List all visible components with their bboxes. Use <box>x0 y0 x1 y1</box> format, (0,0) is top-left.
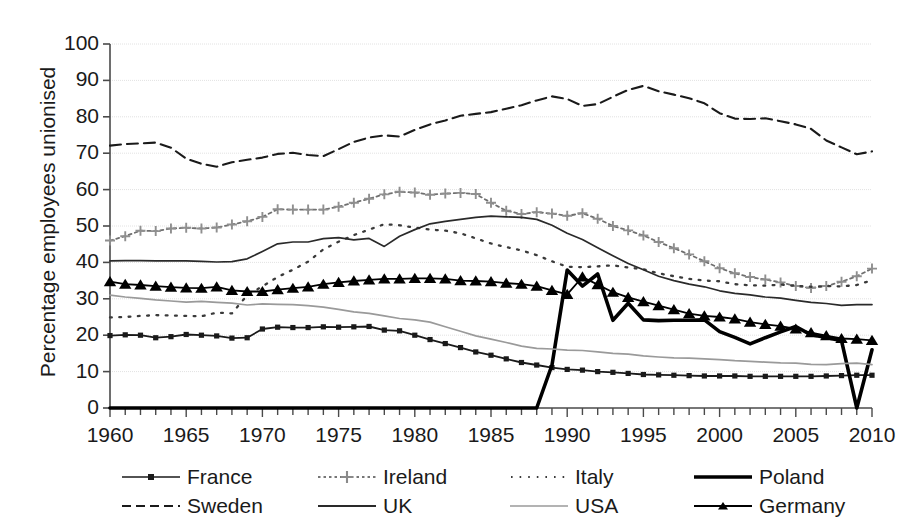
x-tick-label: 1985 <box>456 423 526 447</box>
legend-sample-germany <box>692 496 754 516</box>
x-tick-label: 2000 <box>685 423 755 447</box>
x-tick-label: 1980 <box>380 423 450 447</box>
data-point <box>273 204 283 214</box>
data-point <box>257 212 267 222</box>
y-tick-label: 0 <box>47 395 99 419</box>
data-point <box>839 373 844 378</box>
data-point <box>395 187 405 197</box>
data-point <box>443 341 448 346</box>
data-point <box>366 324 371 329</box>
data-point <box>501 206 511 216</box>
legend-item-germany[interactable]: Germany <box>692 491 872 520</box>
legend-item-uk[interactable]: UK <box>316 491 508 520</box>
series-uk <box>110 216 872 305</box>
y-tick-label: 60 <box>47 177 99 201</box>
data-point <box>867 264 877 274</box>
data-point <box>318 205 328 215</box>
x-tick-label: 1975 <box>304 423 374 447</box>
data-point <box>610 370 615 375</box>
data-point <box>595 369 600 374</box>
data-point <box>656 372 661 377</box>
data-point <box>671 373 676 378</box>
y-tick-label: 40 <box>47 249 99 273</box>
data-point <box>808 374 813 379</box>
data-point <box>229 336 234 341</box>
x-tick-label: 1990 <box>532 423 602 447</box>
legend-item-ireland[interactable]: Ireland <box>316 462 508 491</box>
data-point <box>638 230 648 240</box>
data-point <box>120 231 130 241</box>
data-point <box>336 325 341 330</box>
data-point <box>763 374 768 379</box>
data-point <box>641 372 646 377</box>
data-point <box>593 214 603 224</box>
data-point <box>562 211 572 221</box>
chart-legend: France Ireland Italy Poland <box>120 462 880 524</box>
data-point <box>364 194 374 204</box>
data-point <box>473 349 478 354</box>
series-france <box>107 324 874 379</box>
legend-sample-france <box>120 467 182 487</box>
data-point <box>334 202 344 212</box>
data-point <box>288 205 298 215</box>
legend-row-1: France Ireland Italy Poland <box>120 462 880 491</box>
legend-label-sweden: Sweden <box>187 494 263 518</box>
data-point <box>210 281 222 291</box>
legend-label-uk: UK <box>383 494 412 518</box>
data-point <box>869 373 874 378</box>
data-point <box>379 189 389 199</box>
data-point <box>245 335 250 340</box>
data-point <box>824 373 829 378</box>
legend-item-usa[interactable]: USA <box>508 491 692 520</box>
data-point <box>138 333 143 338</box>
legend-label-poland: Poland <box>759 465 824 489</box>
x-tick-label: 1995 <box>608 423 678 447</box>
legend-item-italy[interactable]: Italy <box>508 462 692 491</box>
data-point <box>745 272 755 282</box>
data-point <box>732 373 737 378</box>
data-point <box>135 226 145 236</box>
data-point <box>427 337 432 342</box>
data-point <box>532 207 542 217</box>
data-point <box>104 276 116 286</box>
legend-item-france[interactable]: France <box>120 462 316 491</box>
legend-sample-ireland <box>316 467 378 487</box>
data-point <box>425 190 435 200</box>
data-point <box>382 328 387 333</box>
data-point <box>321 324 326 329</box>
data-point <box>290 325 295 330</box>
data-point <box>458 345 463 350</box>
series-sweden <box>110 86 872 167</box>
data-point <box>168 334 173 339</box>
data-point <box>626 371 631 376</box>
y-tick-label: 70 <box>47 140 99 164</box>
data-point <box>793 374 798 379</box>
data-point <box>260 326 265 331</box>
data-point <box>212 222 222 232</box>
legend-item-poland[interactable]: Poland <box>692 462 872 491</box>
legend-item-sweden[interactable]: Sweden <box>120 491 316 520</box>
data-point <box>440 189 450 199</box>
legend-sample-usa <box>508 496 570 516</box>
legend-label-germany: Germany <box>759 494 845 518</box>
x-tick-label: 1970 <box>227 423 297 447</box>
data-point <box>747 374 752 379</box>
y-tick-label: 10 <box>47 359 99 383</box>
y-tick-label: 80 <box>47 104 99 128</box>
data-point <box>534 362 539 367</box>
unionisation-line-chart: Percentage employees unionised France Ir… <box>0 0 898 528</box>
x-tick-label: 1960 <box>75 423 145 447</box>
data-point <box>778 374 783 379</box>
y-tick-label: 30 <box>47 286 99 310</box>
data-point <box>702 373 707 378</box>
data-point <box>486 198 496 208</box>
data-point <box>397 328 402 333</box>
data-point <box>580 368 585 373</box>
x-tick-label: 2005 <box>761 423 831 447</box>
legend-row-2: Sweden UK USA Germany <box>120 491 880 520</box>
data-point <box>547 209 557 219</box>
data-point <box>214 333 219 338</box>
data-point <box>105 236 115 246</box>
legend-label-italy: Italy <box>575 465 614 489</box>
legend-sample-sweden <box>120 496 182 516</box>
